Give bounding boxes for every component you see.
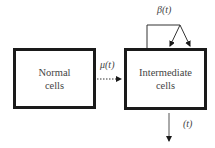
- normal-cells-label-line1: Normal: [38, 66, 70, 79]
- proliferation-rate-label: β(t): [157, 4, 171, 15]
- intermediate-cells-label-line1: Intermediate: [139, 66, 192, 79]
- proliferation-loop-line: [147, 25, 180, 48]
- death-rate-label: (t): [183, 118, 192, 129]
- normal-cells-label-line2: cells: [45, 79, 64, 92]
- transition-rate-label: μ(t): [100, 59, 114, 70]
- intermediate-cells-label-line2: cells: [156, 79, 175, 92]
- intermediate-cells-box: Intermediate cells: [124, 48, 207, 110]
- normal-cells-box: Normal cells: [13, 48, 96, 109]
- proliferation-arrow-left: [170, 25, 180, 46]
- proliferation-arrow-right: [180, 25, 190, 46]
